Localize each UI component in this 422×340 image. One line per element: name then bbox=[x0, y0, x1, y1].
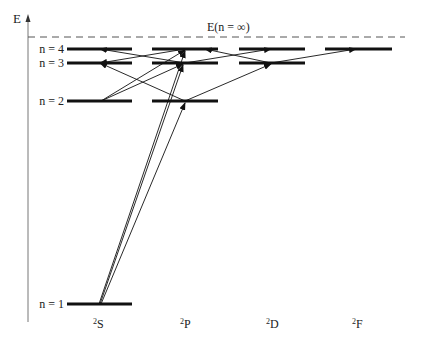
transition-1S-4P bbox=[99, 51, 185, 304]
ionization-limit-label: E(n = ∞) bbox=[207, 21, 250, 33]
term-label-2D: 2D bbox=[266, 316, 279, 330]
term-label-2S: 2S bbox=[93, 316, 104, 330]
term-label-2P: 2P bbox=[180, 316, 191, 330]
levels bbox=[67, 49, 392, 304]
energy-axis-label: E bbox=[13, 13, 21, 25]
n1-label: n = 1 bbox=[24, 298, 64, 310]
n3-label: n = 3 bbox=[24, 57, 64, 69]
transition-1S-2P bbox=[101, 103, 185, 304]
term-label-2F: 2F bbox=[352, 316, 363, 330]
n4-label: n = 4 bbox=[24, 43, 64, 55]
energy-axis-arrow-icon bbox=[26, 14, 31, 22]
transition-3P-4D bbox=[185, 49, 271, 63]
transition-3D-4F bbox=[271, 49, 356, 63]
transition-2S-3P bbox=[101, 64, 183, 101]
n2-label: n = 2 bbox=[24, 95, 64, 107]
transitions bbox=[99, 49, 356, 304]
transition-2S-4P bbox=[101, 50, 185, 101]
transition-3D-4P bbox=[205, 49, 271, 63]
transition-2P-3D bbox=[185, 64, 271, 101]
